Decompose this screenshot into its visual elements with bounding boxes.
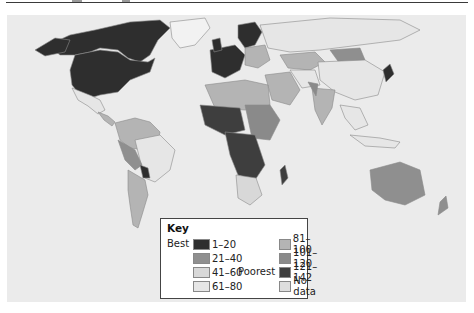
legend-item: 41–60 bbox=[193, 266, 242, 278]
legend-swatch bbox=[279, 253, 291, 264]
legend-item: 61–80 bbox=[193, 280, 242, 292]
world-map: Key Best Poorest 1–20 21–40 41–60 61–80 … bbox=[7, 15, 466, 302]
legend-label: 41–60 bbox=[212, 267, 242, 278]
legend-label: 61–80 bbox=[212, 281, 242, 292]
region-madagascar bbox=[280, 165, 288, 185]
region-new-zealand bbox=[438, 196, 448, 215]
legend-label: 1–20 bbox=[212, 239, 236, 250]
legend-label: No data bbox=[293, 275, 320, 297]
region-argentina-chile bbox=[128, 170, 148, 228]
legend-swatch bbox=[279, 239, 291, 250]
region-se-asia bbox=[340, 105, 368, 130]
legend-title: Key bbox=[167, 222, 189, 234]
region-eastern-europe bbox=[245, 45, 270, 68]
legend-poorest-label: Poorest bbox=[238, 266, 275, 277]
region-japan bbox=[383, 64, 394, 82]
legend-label: 21–40 bbox=[212, 253, 242, 264]
map-legend: Key Best Poorest 1–20 21–40 41–60 61–80 … bbox=[160, 218, 308, 299]
legend-swatch bbox=[279, 281, 291, 292]
region-russia bbox=[260, 18, 420, 52]
region-central-africa bbox=[225, 132, 265, 180]
legend-item: No data bbox=[279, 280, 321, 292]
region-scandinavia bbox=[238, 22, 262, 48]
legend-swatch bbox=[193, 253, 210, 264]
legend-item: 1–20 bbox=[193, 238, 236, 250]
region-central-america bbox=[98, 112, 115, 126]
legend-swatch bbox=[193, 267, 210, 278]
region-brazil bbox=[135, 135, 175, 182]
region-kazakhstan bbox=[280, 52, 325, 70]
legend-item: 21–40 bbox=[193, 252, 242, 264]
region-greenland bbox=[170, 18, 210, 48]
legend-swatch bbox=[193, 281, 210, 292]
region-uk bbox=[212, 38, 222, 52]
legend-swatch bbox=[193, 239, 210, 250]
region-indonesia bbox=[350, 135, 400, 148]
header-fragment bbox=[122, 0, 130, 2]
header-rule bbox=[6, 2, 468, 3]
legend-best-label: Best bbox=[167, 238, 189, 249]
region-southern-africa bbox=[236, 175, 262, 205]
legend-swatch bbox=[279, 267, 291, 278]
region-australia bbox=[370, 162, 425, 205]
region-west-africa bbox=[200, 105, 245, 135]
header-fragment bbox=[72, 0, 82, 2]
